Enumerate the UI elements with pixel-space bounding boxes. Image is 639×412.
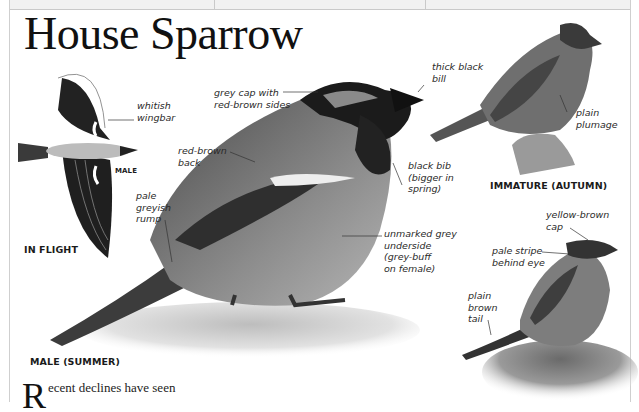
annotation-black-bib: black bib (bigger in spring) bbox=[408, 160, 454, 195]
body-text: ecent declines have seen bbox=[48, 380, 175, 396]
immature-sparrow-image bbox=[430, 23, 602, 175]
annotation-yellow-brown-cap: yellow-brown cap bbox=[546, 209, 609, 232]
caption-immature-autumn: IMMATURE (AUTUMN) bbox=[490, 180, 607, 191]
annotation-pale-greyish-rump: pale greyish rump bbox=[136, 190, 171, 225]
caption-in-flight: IN FLIGHT bbox=[24, 244, 78, 255]
annotation-pale-stripe-behind-eye: pale stripe behind eye bbox=[492, 245, 545, 268]
caption-male-summer: MALE (SUMMER) bbox=[30, 356, 120, 367]
annotation-grey-cap: grey cap with red-brown sides bbox=[214, 87, 290, 110]
annotation-red-brown-back: red-brown back bbox=[178, 145, 227, 168]
annotation-thick-black-bill: thick black bill bbox=[432, 61, 483, 84]
annotation-plain-brown-tail: plain brown tail bbox=[468, 290, 498, 325]
annotation-plain-plumage: plain plumage bbox=[576, 107, 618, 130]
annotation-whitish-wingbar: whitish wingbar bbox=[137, 100, 175, 123]
flight-sublabel-male: MALE bbox=[115, 167, 137, 175]
drop-cap: R bbox=[22, 378, 46, 412]
annotation-unmarked-grey-underside: unmarked grey underside (grey-buff on fe… bbox=[384, 228, 457, 274]
